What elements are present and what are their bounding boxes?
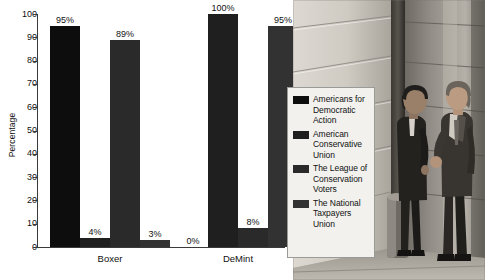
bar xyxy=(50,26,80,247)
bar xyxy=(140,240,170,247)
bar-value-label: 100% xyxy=(204,3,242,13)
legend-swatch xyxy=(293,165,309,173)
legend-item: The League of Conservation Voters xyxy=(293,163,370,195)
bar xyxy=(80,238,110,247)
legend-swatch xyxy=(293,96,309,104)
x-axis-line xyxy=(37,247,285,248)
legend-swatch xyxy=(293,131,309,139)
bar-value-label: 4% xyxy=(76,227,114,237)
x-axis-group-label: DeMint xyxy=(198,253,278,264)
bar-value-label: 89% xyxy=(106,29,144,39)
bar-value-label: 3% xyxy=(136,229,174,239)
figure-root: Percentage 1009080706050403020100 95%0%4… xyxy=(0,0,485,280)
legend-label: Americans for Democratic Action xyxy=(313,94,370,126)
legend-item: Americans for Democratic Action xyxy=(293,94,370,126)
legend-label: American Conservative Union xyxy=(313,129,370,161)
legend-label: The National Taxpayers Union xyxy=(313,198,370,230)
y-axis-ticks: 1009080706050403020100 xyxy=(0,0,37,280)
plot-area: 95%0%4%100%89%8%3%95% xyxy=(38,14,285,247)
legend-item: American Conservative Union xyxy=(293,129,370,161)
bar-value-label: 0% xyxy=(174,236,212,246)
legend-label: The League of Conservation Voters xyxy=(313,163,370,195)
bar-value-label: 95% xyxy=(46,15,84,25)
bar xyxy=(208,14,238,247)
bar xyxy=(110,40,140,247)
x-axis-group-label: Boxer xyxy=(70,253,150,264)
bar-value-label: 8% xyxy=(234,217,272,227)
bar xyxy=(238,228,268,247)
legend-item: The National Taxpayers Union xyxy=(293,198,370,230)
chart-legend: Americans for Democratic ActionAmerican … xyxy=(287,87,375,258)
legend-swatch xyxy=(293,200,309,208)
bar-chart: Percentage 1009080706050403020100 95%0%4… xyxy=(0,0,293,280)
